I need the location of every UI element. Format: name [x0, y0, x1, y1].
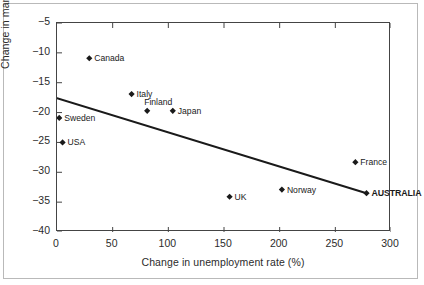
data-point-marker-norway	[279, 187, 285, 193]
y-tick-label: −5	[8, 15, 50, 27]
data-point-label-usa: USA	[68, 138, 86, 147]
data-point-label-finland: Finland	[144, 98, 172, 107]
y-tick-label: −25	[8, 134, 50, 146]
y-axis-title: Change in manuf. share (%)	[0, 0, 11, 82]
plot-area: CanadaItalyFinlandJapanSwedenUSAUKNorway…	[56, 22, 390, 231]
x-tick-label: 300	[370, 237, 410, 249]
y-tick-label: −30	[8, 164, 50, 176]
trend-line	[57, 98, 367, 193]
data-point-marker-japan	[170, 108, 176, 114]
data-point-label-australia: AUSTRALIA	[372, 189, 422, 198]
data-point-marker-italy	[128, 91, 134, 97]
data-point-marker-australia	[363, 190, 369, 196]
x-tick-label: 100	[147, 237, 187, 249]
figure-scatter-plot: Change in manuf. share (%) Change in une…	[0, 0, 424, 285]
x-tick-label: 50	[92, 237, 132, 249]
data-point-marker-canada	[86, 55, 92, 61]
x-axis-title: Change in unemployment rate (%)	[56, 256, 390, 268]
y-tick-label: −35	[8, 194, 50, 206]
x-tick-label: 0	[36, 237, 76, 249]
data-point-marker-finland	[144, 108, 150, 114]
x-tick-label: 200	[259, 237, 299, 249]
y-tick-label: −40	[8, 224, 50, 236]
data-point-label-sweden: Sweden	[64, 114, 95, 123]
data-point-marker-usa	[59, 139, 65, 145]
data-point-marker-sweden	[57, 115, 62, 121]
x-tick-label: 250	[314, 237, 354, 249]
y-tick-label: −20	[8, 105, 50, 117]
data-point-label-norway: Norway	[287, 186, 316, 195]
y-tick-label: −15	[8, 75, 50, 87]
data-point-label-france: France	[360, 158, 387, 167]
data-point-marker-france	[352, 159, 358, 165]
data-point-marker-uk	[226, 194, 232, 200]
data-point-label-uk: UK	[235, 193, 247, 202]
data-point-label-canada: Canada	[94, 54, 124, 63]
y-tick-label: −10	[8, 45, 50, 57]
x-tick-label: 150	[203, 237, 243, 249]
data-point-label-japan: Japan	[178, 107, 201, 116]
